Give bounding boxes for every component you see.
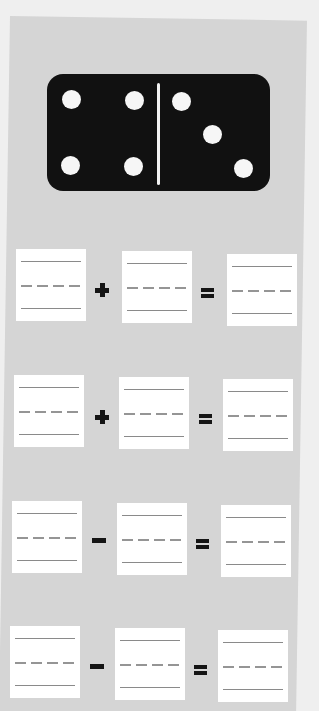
guide-line: [21, 308, 81, 309]
answer-box-row2-b[interactable]: [119, 377, 189, 449]
answer-box-row3-b[interactable]: [117, 503, 187, 575]
minus-icon: [90, 664, 104, 669]
guide-line: [120, 687, 180, 688]
pip-icon: [62, 90, 81, 109]
guide-line: [223, 689, 283, 690]
guide-line: [15, 638, 75, 639]
answer-box-row4-b[interactable]: [115, 628, 185, 700]
guide-line: [17, 560, 77, 561]
guide-line: [127, 310, 187, 311]
answer-box-row3-a[interactable]: [12, 501, 82, 573]
dashed-guide-line: [122, 539, 182, 541]
dashed-guide-line: [223, 666, 283, 668]
answer-box-row2-result[interactable]: [223, 379, 293, 451]
guide-line: [228, 438, 288, 439]
equals-icon: [199, 414, 212, 425]
pip-icon: [61, 156, 80, 175]
guide-line: [226, 517, 286, 518]
answer-box-row1-result[interactable]: [227, 254, 297, 326]
pip-icon: [203, 125, 222, 144]
pip-icon: [124, 157, 143, 176]
guide-line: [17, 513, 77, 514]
guide-line: [15, 685, 75, 686]
dashed-guide-line: [127, 287, 187, 289]
pip-icon: [172, 92, 191, 111]
guide-line: [21, 261, 81, 262]
minus-icon: [92, 538, 106, 543]
guide-line: [223, 642, 283, 643]
dashed-guide-line: [124, 413, 184, 415]
domino-tile: [47, 74, 270, 191]
plus-icon: [95, 283, 109, 297]
equals-icon: [194, 665, 207, 676]
guide-line: [19, 434, 79, 435]
equals-icon: [196, 539, 209, 550]
guide-line: [124, 436, 184, 437]
dashed-guide-line: [17, 537, 77, 539]
pip-icon: [234, 159, 253, 178]
guide-line: [127, 263, 187, 264]
guide-line: [226, 564, 286, 565]
answer-box-row1-a[interactable]: [16, 249, 86, 321]
dashed-guide-line: [228, 415, 288, 417]
guide-line: [19, 387, 79, 388]
dashed-guide-line: [15, 662, 75, 664]
guide-line: [232, 266, 292, 267]
guide-line: [120, 640, 180, 641]
answer-box-row2-a[interactable]: [14, 375, 84, 447]
answer-box-row4-a[interactable]: [10, 626, 80, 698]
plus-icon: [95, 410, 109, 424]
dashed-guide-line: [21, 285, 81, 287]
guide-line: [228, 391, 288, 392]
dashed-guide-line: [120, 664, 180, 666]
worksheet-page: [0, 0, 319, 711]
dashed-guide-line: [232, 290, 292, 292]
pip-icon: [125, 91, 144, 110]
dashed-guide-line: [19, 411, 79, 413]
equals-icon: [201, 288, 214, 299]
answer-box-row3-result[interactable]: [221, 505, 291, 577]
guide-line: [232, 313, 292, 314]
answer-box-row1-b[interactable]: [122, 251, 192, 323]
guide-line: [122, 515, 182, 516]
answer-box-row4-result[interactable]: [218, 630, 288, 702]
domino-divider: [157, 83, 160, 185]
dashed-guide-line: [226, 541, 286, 543]
guide-line: [124, 389, 184, 390]
guide-line: [122, 562, 182, 563]
